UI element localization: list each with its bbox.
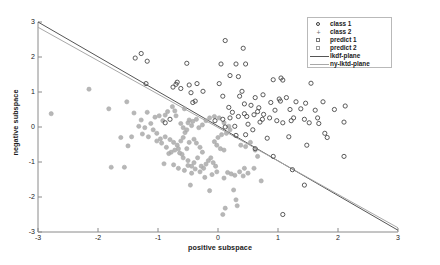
y-tick-label: -1 xyxy=(19,158,35,165)
y-axis-title: negative subspace xyxy=(11,63,20,183)
y-tick-label: 1 xyxy=(19,88,35,95)
y-tick-label: -2 xyxy=(19,193,35,200)
legend-item-predict-1[interactable]: predict 1 xyxy=(308,36,391,44)
y-tick-label: 3 xyxy=(19,18,35,25)
legend-item-ny-lktd-plane[interactable]: ny-lktd-plane xyxy=(308,60,391,68)
legend-item-class-2[interactable]: +class 2 xyxy=(308,28,391,36)
legend-label: class 1 xyxy=(330,20,351,28)
x-tick-label: 3 xyxy=(388,234,408,241)
x-axis-title: positive subspace xyxy=(0,243,440,252)
solid-line-icon xyxy=(308,52,330,60)
legend-item-lkdf-plane[interactable]: lkdf-plane xyxy=(308,52,391,60)
plus-icon: + xyxy=(308,28,330,36)
legend-label: class 2 xyxy=(330,28,351,36)
legend-label: ny-lktd-plane xyxy=(330,60,370,68)
legend-label: lkdf-plane xyxy=(330,52,360,60)
legend-item-predict-2[interactable]: predict 2 xyxy=(308,44,391,52)
x-tick-label: -3 xyxy=(28,234,48,241)
circle-open-icon xyxy=(308,20,330,28)
chart-legend[interactable]: class 1+class 2predict 1predict 2lkdf-pl… xyxy=(307,17,392,68)
y-tick-label: 2 xyxy=(19,53,35,60)
legend-label: predict 1 xyxy=(330,36,357,44)
square-open-icon xyxy=(308,36,330,44)
scatter-plot-figure: -3-2-10123 -3-2-10123 positive subspace … xyxy=(0,0,440,265)
x-tick-label: 0 xyxy=(208,234,228,241)
x-tick-label: -1 xyxy=(148,234,168,241)
x-tick-label: 2 xyxy=(328,234,348,241)
y-tick-label: -3 xyxy=(19,228,35,235)
x-tick-label: -2 xyxy=(88,234,108,241)
legend-item-class-1[interactable]: class 1 xyxy=(308,20,391,28)
y-tick-label: 0 xyxy=(19,123,35,130)
solid-line-icon xyxy=(308,60,330,68)
legend-label: predict 2 xyxy=(330,44,357,52)
square-open-icon xyxy=(308,44,330,52)
x-tick-label: 1 xyxy=(268,234,288,241)
